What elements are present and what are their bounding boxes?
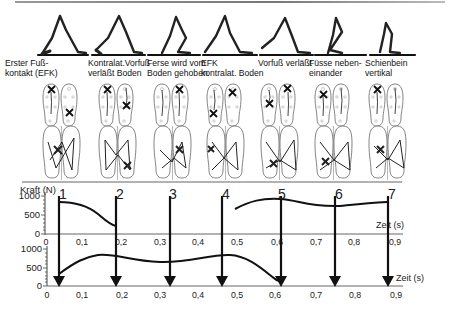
svg-text:1: 1 — [59, 186, 67, 202]
svg-text:500: 500 — [24, 209, 40, 220]
foot-row-1 — [43, 84, 403, 126]
svg-text:0: 0 — [45, 290, 50, 300]
event-arrows — [53, 196, 394, 287]
phase-label-3: Ferse wird vomBoden gehoben — [147, 58, 208, 78]
svg-text:0,9: 0,9 — [389, 237, 401, 247]
event-numbers: 1 2 3 4 5 6 7 — [59, 186, 396, 202]
svg-text:7: 7 — [388, 186, 396, 202]
svg-text:0,2: 0,2 — [116, 290, 128, 300]
gait-stick-figures — [0, 8, 450, 60]
phase-label-6: Füsse neben-einander — [309, 58, 362, 78]
phase-label-7: Schienbeinvertikal — [365, 58, 408, 78]
foot-row-2 — [43, 126, 406, 180]
svg-text:5: 5 — [278, 186, 286, 202]
svg-text:Zeit (s): Zeit (s) — [396, 273, 424, 283]
svg-text:0,1: 0,1 — [76, 290, 88, 300]
svg-text:0,4: 0,4 — [192, 290, 204, 300]
svg-text:0,5: 0,5 — [231, 237, 243, 247]
svg-text:6: 6 — [335, 186, 343, 202]
force-time-chart: Kraft (N) 1000 500 0 Zeit (s) 0 0,1 0,2 … — [0, 184, 450, 316]
svg-text:1000: 1000 — [21, 243, 42, 254]
svg-text:4: 4 — [222, 186, 230, 202]
svg-text:0,8: 0,8 — [348, 237, 360, 247]
svg-text:2: 2 — [116, 186, 124, 202]
svg-text:1000: 1000 — [19, 190, 40, 201]
top-force-curve-2 — [235, 199, 387, 209]
svg-text:0,3: 0,3 — [154, 237, 166, 247]
svg-text:0: 0 — [37, 280, 42, 291]
svg-text:0,9: 0,9 — [390, 290, 402, 300]
svg-text:0,6: 0,6 — [269, 290, 281, 300]
svg-text:0,3: 0,3 — [154, 290, 166, 300]
phase-label-2: Kontralat.Vorfußverläßt Boden — [88, 58, 150, 78]
svg-text:0: 0 — [44, 237, 49, 247]
bottom-x-ticks: 0 0,1 0,2 0,3 0,4 0,5 0,6 0,7 0,8 0,9 — [45, 290, 403, 300]
svg-text:0,7: 0,7 — [310, 237, 322, 247]
phase-label-4: EFKkontralat. Boden — [201, 58, 264, 78]
svg-text:0,8: 0,8 — [349, 290, 361, 300]
top-force-curve — [59, 202, 116, 226]
svg-text:0: 0 — [35, 228, 40, 239]
svg-text:500: 500 — [26, 262, 42, 273]
top-divider — [15, 1, 445, 3]
svg-text:0,5: 0,5 — [231, 290, 243, 300]
foot-pressure-diagrams — [0, 80, 450, 184]
svg-text:3: 3 — [169, 186, 177, 202]
phase-label-1: Erster Fuß-kontakt (EFK) — [5, 58, 58, 78]
phase-label-5: Vorfuß verläßt — [258, 58, 312, 68]
svg-text:0,1: 0,1 — [76, 237, 88, 247]
svg-text:Zeit (s): Zeit (s) — [376, 220, 404, 230]
svg-text:0,7: 0,7 — [310, 290, 322, 300]
svg-text:0,4: 0,4 — [192, 237, 204, 247]
